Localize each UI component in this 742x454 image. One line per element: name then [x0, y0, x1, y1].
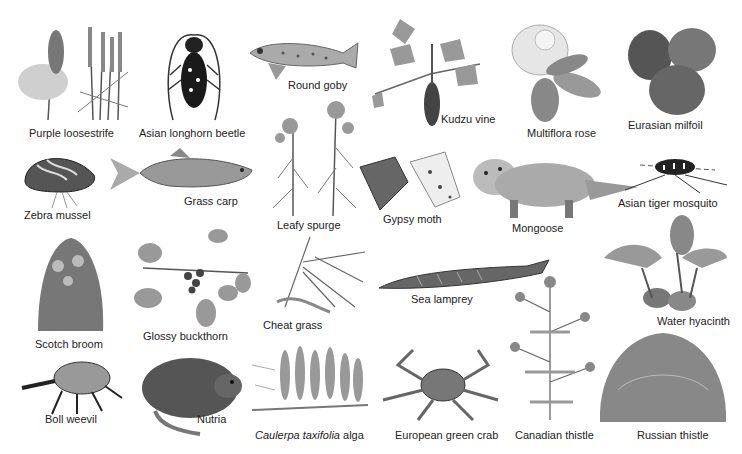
multiflora-rose-illustration: [505, 20, 605, 125]
eurasian-milfoil-illustration: [622, 25, 722, 115]
nutria-label: Nutria: [197, 413, 226, 425]
zebra-mussel-illustration: [22, 150, 100, 210]
caulerpa-alga-label: Caulerpa taxifolia alga: [255, 429, 364, 441]
mongoose-label: Mongoose: [512, 222, 563, 234]
glossy-buckthorn-illustration: [128, 228, 256, 333]
sea-lamprey-label: Sea lamprey: [411, 293, 473, 305]
boll-weevil-illustration: [17, 356, 122, 416]
caulerpa-alga-illustration: [250, 345, 370, 425]
asian-longhorn-beetle-illustration: [158, 25, 230, 125]
round-goby-illustration: [248, 38, 360, 82]
asian-longhorn-beetle-label: Asian longhorn beetle: [139, 127, 245, 139]
gypsy-moth-illustration: [360, 152, 460, 212]
glossy-buckthorn-label: Glossy buckthorn: [143, 330, 228, 342]
asian-tiger-mosquito-label: Asian tiger mosquito: [618, 197, 718, 209]
water-hyacinth-illustration: [602, 213, 730, 318]
nutria-illustration: [140, 356, 245, 436]
grass-carp-label: Grass carp: [184, 195, 238, 207]
leafy-spurge-illustration: [268, 98, 363, 218]
leafy-spurge-label: Leafy spurge: [277, 219, 341, 231]
scotch-broom-label: Scotch broom: [35, 338, 103, 350]
russian-thistle-illustration: [598, 330, 728, 425]
cheat-grass-illustration: [275, 237, 370, 312]
round-goby-label: Round goby: [288, 79, 347, 91]
european-green-crab-label: European green crab: [395, 429, 498, 441]
purple-loosestrife-label: Purple loosestrife: [29, 127, 114, 139]
russian-thistle-label: Russian thistle: [637, 429, 709, 441]
caulerpa-species-name: Caulerpa taxifolia: [255, 429, 340, 441]
asian-tiger-mosquito-illustration: [615, 145, 730, 195]
boll-weevil-label: Boll weevil: [45, 413, 97, 425]
purple-loosestrife-illustration: [8, 12, 133, 122]
multiflora-rose-label: Multiflora rose: [527, 127, 596, 139]
water-hyacinth-label: Water hyacinth: [657, 315, 730, 327]
scotch-broom-illustration: [33, 236, 108, 336]
kudzu-vine-label: Kudzu vine: [441, 113, 495, 125]
eurasian-milfoil-label: Eurasian milfoil: [628, 119, 703, 131]
canadian-thistle-illustration: [505, 272, 595, 422]
cheat-grass-label: Cheat grass: [263, 319, 322, 331]
caulerpa-suffix: alga: [340, 429, 364, 441]
canadian-thistle-label: Canadian thistle: [515, 429, 594, 441]
european-green-crab-illustration: [378, 345, 503, 425]
gypsy-moth-label: Gypsy moth: [383, 213, 442, 225]
kudzu-vine-illustration: [370, 14, 495, 129]
zebra-mussel-label: Zebra mussel: [24, 209, 91, 221]
